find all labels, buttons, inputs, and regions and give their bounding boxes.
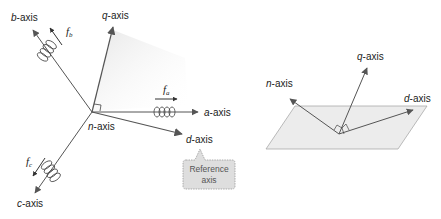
d-axis-label: d-axis xyxy=(186,134,213,145)
callout-line-1: Reference xyxy=(189,164,228,174)
b-axis-label: b-axis xyxy=(11,12,38,23)
a-axis-label: a-axis xyxy=(204,107,231,118)
right-diagram: q-axis n-axis d-axis xyxy=(266,51,431,149)
force-c-label: fc xyxy=(26,155,33,169)
force-b-label: fb xyxy=(66,25,73,39)
d-axis-label-right: d-axis xyxy=(404,93,431,104)
b-axis-line xyxy=(33,30,92,112)
reference-axis-callout: Reference axis xyxy=(183,149,235,189)
c-axis-label: c-axis xyxy=(17,198,43,209)
left-diagram: b-axis q-axis a-axis d-axis n-axis c-axi… xyxy=(11,10,235,209)
q-axis-label: q-axis xyxy=(102,10,129,21)
reference-plane xyxy=(266,106,427,149)
c-axis-line xyxy=(35,112,92,193)
callout-line-2: axis xyxy=(201,175,216,185)
n-axis-label-right: n-axis xyxy=(266,78,293,89)
force-b-arrow-icon xyxy=(50,28,62,45)
force-c-arrow-icon xyxy=(33,158,45,176)
dq-axis-diagram: b-axis q-axis a-axis d-axis n-axis c-axi… xyxy=(0,0,441,219)
n-axis-label: n-axis xyxy=(88,121,115,132)
q-axis-label-right: q-axis xyxy=(357,51,384,62)
